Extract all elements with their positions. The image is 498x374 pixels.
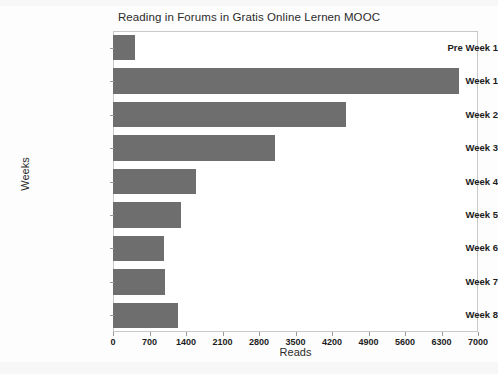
bar: [113, 169, 196, 195]
x-tick-label: 700: [142, 337, 157, 347]
y-tick-mark: [110, 315, 114, 316]
y-tick-mark: [110, 115, 114, 116]
x-tick-mark: [113, 332, 114, 336]
x-tick-label: 4200: [322, 337, 342, 347]
x-tick-mark: [186, 332, 187, 336]
y-tick-mark: [110, 282, 114, 283]
x-tick-mark: [369, 332, 370, 336]
chart-figure: Reading in Forums in Gratis Online Lerne…: [0, 0, 498, 374]
y-tick-label: Week 7: [390, 276, 498, 287]
x-tick-label: 5600: [395, 337, 415, 347]
bar: [113, 35, 135, 61]
x-tick-label: 4900: [358, 337, 378, 347]
scan-artifact: [0, 0, 498, 6]
x-tick-label: 7000: [468, 337, 488, 347]
y-tick-label: Week 6: [390, 242, 498, 253]
x-tick-label: 3500: [285, 337, 305, 347]
x-tick-label: 6300: [431, 337, 451, 347]
bar: [113, 135, 275, 161]
y-tick-label: Week 5: [390, 209, 498, 220]
bar: [113, 202, 181, 228]
y-tick-label: Week 8: [390, 309, 498, 320]
y-tick-mark: [110, 148, 114, 149]
x-tick-mark: [296, 332, 297, 336]
x-tick-mark: [259, 332, 260, 336]
y-tick-mark: [110, 215, 114, 216]
bar: [113, 269, 165, 295]
x-tick-label: 2800: [249, 337, 269, 347]
x-tick-label: 2100: [212, 337, 232, 347]
y-tick-label: Week 4: [390, 176, 498, 187]
x-tick-mark: [332, 332, 333, 336]
y-tick-label: Pre Week 1: [390, 42, 498, 53]
y-tick-label: Week 2: [390, 109, 498, 120]
y-tick-mark: [110, 48, 114, 49]
y-tick-label: Week 3: [390, 142, 498, 153]
y-tick-mark: [110, 81, 114, 82]
y-axis-title: Weeks: [19, 144, 31, 204]
x-tick-mark: [442, 332, 443, 336]
x-tick-label: 1400: [176, 337, 196, 347]
x-tick-mark: [223, 332, 224, 336]
bar: [113, 303, 178, 329]
x-tick-mark: [478, 332, 479, 336]
y-tick-mark: [110, 248, 114, 249]
x-tick-label: 0: [110, 337, 115, 347]
x-tick-mark: [405, 332, 406, 336]
bar: [113, 236, 164, 262]
chart-title: Reading in Forums in Gratis Online Lerne…: [0, 11, 498, 23]
x-axis-title: Reads: [113, 346, 478, 358]
bar: [113, 102, 346, 128]
x-tick-mark: [150, 332, 151, 336]
y-tick-mark: [110, 182, 114, 183]
scan-artifact: [0, 362, 498, 374]
y-tick-label: Week 1: [390, 75, 498, 86]
